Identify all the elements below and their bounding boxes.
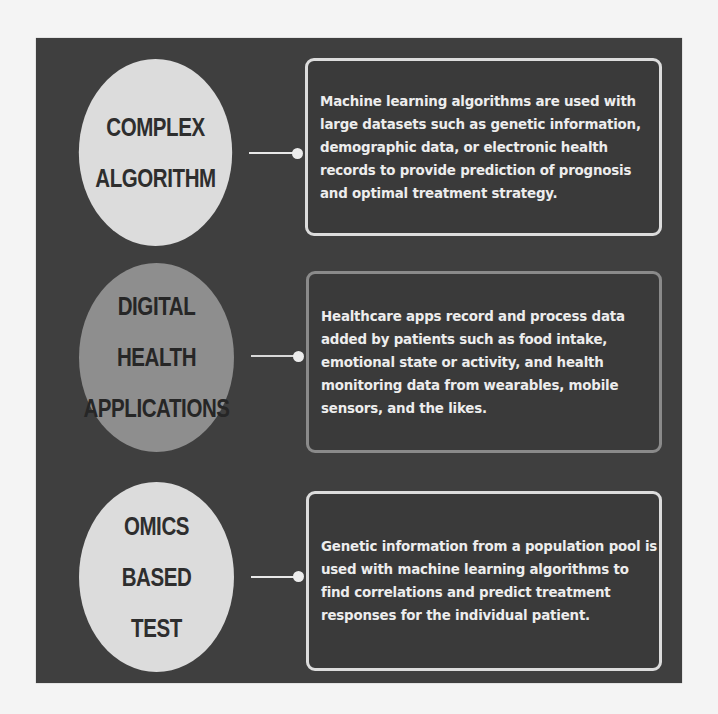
connector-dot [292, 148, 303, 159]
connector-line [251, 576, 297, 578]
description-text: Healthcare apps record and process data … [321, 305, 659, 420]
circle-title-line: HEALTH [117, 332, 196, 383]
description-text: Machine learning algorithms are used wit… [320, 90, 659, 205]
connector-dot [293, 351, 304, 362]
connector-dot [293, 571, 304, 582]
circle-title-line: COMPLEX [106, 102, 205, 153]
connector-line [251, 355, 297, 357]
description-box-digital-health-applications: Healthcare apps record and process data … [306, 271, 662, 453]
circle-title-line: ALGORITHM [95, 153, 215, 204]
circle-title-line: DIGITAL [118, 281, 196, 332]
circle-omics-based-test: OMICS BASED TEST [79, 482, 234, 672]
circle-complex-algorithm: COMPLEX ALGORITHM [79, 59, 232, 246]
circle-title-line: TEST [131, 603, 182, 654]
circle-title-line: APPLICATIONS [83, 383, 229, 434]
description-box-omics-based-test: Genetic information from a population po… [306, 491, 662, 671]
description-box-complex-algorithm: Machine learning algorithms are used wit… [305, 58, 662, 236]
connector-line [249, 152, 297, 154]
circle-title-line: BASED [122, 552, 192, 603]
description-text: Genetic information from a population po… [321, 535, 659, 627]
circle-title-line: OMICS [124, 501, 189, 552]
circle-digital-health-applications: DIGITAL HEALTH APPLICATIONS [79, 263, 234, 452]
